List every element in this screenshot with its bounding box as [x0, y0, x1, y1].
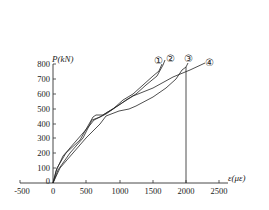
curve-label-3: ③ [184, 54, 193, 64]
y-tick-label: 500 [37, 104, 50, 114]
x-tick-label: 2500 [211, 186, 228, 196]
y-tick-label: 300 [37, 133, 50, 143]
y-tick-label: 400 [37, 119, 50, 129]
curve-1 [53, 64, 162, 183]
x-tick-label: 1500 [145, 186, 162, 196]
y-tick-label: 0 [46, 176, 50, 186]
curve-label-1: ① [154, 56, 163, 66]
curve-label-2: ② [166, 54, 175, 64]
x-tick-label: -500 [14, 186, 30, 196]
curve-4 [53, 63, 205, 183]
x-tick-label: 500 [80, 186, 93, 196]
curve-2 [53, 60, 165, 183]
curve-label-4: ④ [205, 58, 214, 68]
x-axis-title: ε(με) [228, 173, 246, 183]
x-tick-label: 0 [51, 186, 55, 196]
chart: 800 700 600 500 400 300 200 100 0 -500 0… [0, 0, 269, 210]
y-tick-label: 800 [37, 59, 50, 69]
y-tick-label: 100 [37, 163, 50, 173]
y-tick-label: 700 [37, 74, 50, 84]
curves [53, 60, 205, 183]
y-axis-title: P(kN) [51, 54, 74, 64]
x-tick-label: 1000 [112, 186, 129, 196]
y-tick-label: 200 [37, 148, 50, 158]
curve-3 [53, 67, 186, 183]
y-tick-label: 600 [37, 89, 50, 99]
x-tick-label: 2000 [178, 186, 195, 196]
